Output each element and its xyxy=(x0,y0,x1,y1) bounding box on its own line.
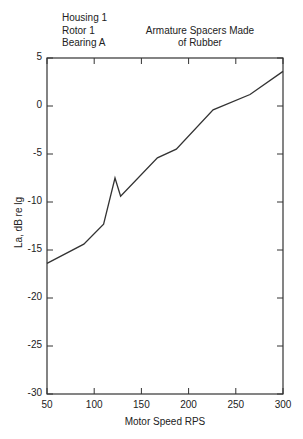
y-tick-label: -20 xyxy=(28,291,42,303)
y-tick-label: 5 xyxy=(36,51,42,63)
annotation-housing: Housing 1 xyxy=(62,12,107,25)
y-tick-label: -5 xyxy=(33,147,42,159)
y-tick-label: -15 xyxy=(28,243,42,255)
annotation-right: Armature Spacers Made of Rubber xyxy=(140,25,260,50)
x-tick-label: 100 xyxy=(79,399,109,411)
annotation-bearing: Bearing A xyxy=(62,37,107,50)
y-tick-label: 0 xyxy=(36,99,42,111)
y-tick-label: -30 xyxy=(28,387,42,399)
x-tick-label: 50 xyxy=(32,399,62,411)
x-tick-label: 150 xyxy=(126,399,156,411)
y-tick-label: -25 xyxy=(28,339,42,351)
plot-area xyxy=(0,0,303,439)
data-line xyxy=(47,71,283,263)
x-tick-label: 250 xyxy=(221,399,251,411)
x-tick-label: 300 xyxy=(268,399,298,411)
axes-frame xyxy=(47,58,283,394)
x-tick-label: 200 xyxy=(174,399,204,411)
annotation-spacers: Armature Spacers Made xyxy=(140,25,260,38)
annotation-rotor: Rotor 1 xyxy=(62,25,107,38)
y-axis-label: La, dB re lg xyxy=(13,188,24,258)
annotation-rubber: of Rubber xyxy=(140,37,260,50)
y-tick-label: -10 xyxy=(28,195,42,207)
annotation-left: Housing 1 Rotor 1 Bearing A xyxy=(62,12,107,50)
x-axis-label: Motor Speed RPS xyxy=(115,416,215,428)
